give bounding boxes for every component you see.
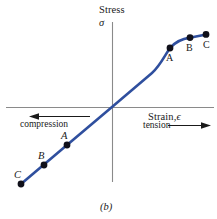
x-axis-symbol: ϵ [176,111,180,122]
data-point-tension-A [167,45,174,52]
data-point-compression-A [64,142,71,149]
stress-strain-plot [0,0,217,219]
point-label-tension-B: B [186,43,193,53]
point-label-compression-C: C [14,170,21,181]
stress-strain-curve [21,34,206,184]
point-label-tension-C: C [203,40,210,50]
tension-label: tension [143,121,170,131]
data-point-tension-B [187,34,194,41]
data-point-compression-B [41,162,48,169]
point-label-compression-A: A [61,131,67,142]
point-label-tension-A: A [166,53,173,63]
stress-strain-figure: Stress σ Strain,ϵ compression tension A … [0,0,217,219]
y-axis-symbol: σ [99,18,104,29]
right-arrow-icon [168,122,211,129]
compression-label: compression [20,120,68,130]
point-label-compression-B: B [38,151,44,162]
y-axis-title: Stress [99,5,125,16]
figure-caption: (b) [100,202,112,213]
data-point-tension-C [203,31,210,38]
data-point-compression-C [18,181,25,188]
